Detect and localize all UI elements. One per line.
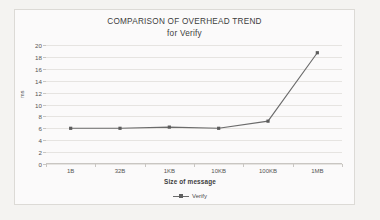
data-point <box>316 51 319 54</box>
x-tick-label: 10KB <box>211 168 226 174</box>
y-tick-label: 10 <box>35 101 42 108</box>
x-tick-label: 1B <box>67 168 74 174</box>
series-verify <box>46 45 342 164</box>
y-axis-tick-labels: 02468101214161820 <box>24 45 42 164</box>
data-point <box>168 126 171 129</box>
x-tick-mark <box>293 164 294 167</box>
series-markers <box>69 51 319 130</box>
chart-title: COMPARISON OF OVERHEAD TREND <box>15 16 354 27</box>
y-tick-label: 0 <box>39 161 42 168</box>
x-tick-label: 32B <box>115 168 126 174</box>
chart-legend: Verify <box>0 193 380 200</box>
y-tick-label: 4 <box>39 137 42 144</box>
data-point <box>69 127 72 130</box>
y-tick-label: 12 <box>35 89 42 96</box>
x-tick-mark <box>145 164 146 167</box>
y-tick-label: 20 <box>35 42 42 49</box>
x-tick-mark <box>95 164 96 167</box>
chart-subtitle: for Verify <box>15 28 354 39</box>
x-tick-label: 1KB <box>164 168 175 174</box>
y-tick-label: 8 <box>39 113 42 120</box>
y-tick-label: 14 <box>35 77 42 84</box>
x-tick-label: 100KB <box>259 168 277 174</box>
x-tick-label: 1MB <box>311 168 323 174</box>
y-tick-label: 6 <box>39 125 42 132</box>
legend-label: Verify <box>192 193 207 199</box>
series-line <box>71 53 318 129</box>
x-tick-mark <box>194 164 195 167</box>
chart-title-block: COMPARISON OF OVERHEAD TREND for Verify <box>15 16 354 39</box>
x-axis-title: Size of message <box>0 178 380 185</box>
y-tick-label: 18 <box>35 53 42 60</box>
x-tick-mark <box>46 164 47 167</box>
plot-area <box>46 45 342 164</box>
data-point <box>266 120 269 123</box>
y-tick-label: 16 <box>35 65 42 72</box>
data-point <box>217 127 220 130</box>
x-tick-mark <box>243 164 244 167</box>
x-axis-tick-labels: 1B32B1KB10KB100KB1MB <box>46 164 342 176</box>
data-point <box>118 127 121 130</box>
legend-marker-icon <box>173 193 189 199</box>
x-tick-mark <box>342 164 343 167</box>
legend-item-verify: Verify <box>173 193 207 199</box>
y-tick-label: 2 <box>39 149 42 156</box>
